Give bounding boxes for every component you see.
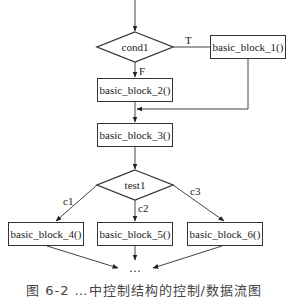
edge-label-c2: c2: [138, 203, 148, 214]
basic-block-5: basic_block_5(): [97, 222, 173, 246]
ellipsis-node: …: [129, 263, 141, 274]
basic-block-3: basic_block_3(): [97, 123, 173, 147]
figure-caption: 图 6-2 …中控制结构的控制/数据流图: [0, 280, 288, 299]
basic-block-6: basic_block_6(): [187, 222, 263, 246]
edge-label-true: T: [185, 35, 192, 46]
cond1-label: cond1: [122, 42, 149, 53]
basic-block-1: basic_block_1(): [210, 35, 286, 59]
test1-label: test1: [125, 180, 146, 191]
edge-bb4-ellipsis: [47, 246, 118, 268]
edge-label-false: F: [139, 66, 145, 77]
edge-label-c1: c1: [63, 196, 73, 207]
edge-bb6-ellipsis: [153, 246, 222, 268]
basic-block-2: basic_block_2(): [97, 78, 173, 102]
edge-label-c3: c3: [190, 186, 200, 197]
basic-block-4: basic_block_4(): [8, 222, 84, 246]
